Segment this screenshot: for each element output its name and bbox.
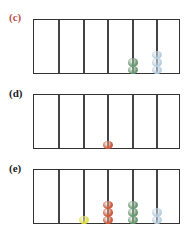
panel-label: (e)	[9, 162, 21, 174]
column-divider	[132, 95, 134, 148]
column-divider	[83, 95, 85, 148]
abacus-frame	[33, 94, 180, 149]
lightblue-bead	[152, 216, 162, 225]
orange-bead	[103, 216, 113, 225]
abacus-frame	[33, 169, 180, 224]
green-bead	[128, 208, 138, 217]
green-bead	[128, 216, 138, 225]
panel-label: (d)	[9, 87, 22, 99]
lightblue-bead	[152, 208, 162, 217]
green-bead	[128, 201, 138, 210]
column-divider	[58, 170, 60, 223]
column-divider	[58, 95, 60, 148]
column-divider	[156, 95, 158, 148]
abacus-panel: (e)	[0, 0, 190, 70]
orange-bead	[103, 208, 113, 217]
yellow-bead	[79, 216, 89, 225]
orange-bead	[103, 201, 113, 210]
orange-bead	[103, 141, 113, 150]
